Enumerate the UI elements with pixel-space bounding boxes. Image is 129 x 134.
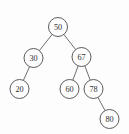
tree-node-label-78: 78 (90, 85, 98, 94)
tree-node-50[interactable]: 50 (49, 18, 68, 37)
tree-edge-50-to-30 (39, 34, 52, 50)
tree-node-label-80: 80 (106, 115, 114, 124)
tree-node-label-60: 60 (66, 85, 74, 94)
tree-node-label-30: 30 (30, 54, 38, 63)
tree-node-label-67: 67 (78, 53, 86, 62)
tree-node-30[interactable]: 30 (24, 49, 43, 68)
tree-node-60[interactable]: 60 (60, 80, 79, 99)
tree-edge-30-to-20 (23, 67, 29, 81)
binary-tree-figure: 50306720607880 (0, 0, 129, 134)
tree-node-80[interactable]: 80 (100, 110, 119, 129)
tree-node-label-50: 50 (54, 23, 62, 32)
edge-layer (23, 34, 105, 110)
tree-edge-78-to-80 (98, 97, 105, 110)
tree-edge-67-to-78 (85, 66, 90, 80)
tree-node-67[interactable]: 67 (72, 48, 91, 67)
tree-edge-50-to-67 (64, 34, 76, 49)
tree-edge-67-to-60 (73, 66, 78, 80)
tree-canvas: 50306720607880 (0, 0, 129, 134)
tree-node-20[interactable]: 20 (10, 80, 29, 99)
tree-node-label-20: 20 (16, 85, 24, 94)
tree-node-78[interactable]: 78 (84, 80, 103, 99)
